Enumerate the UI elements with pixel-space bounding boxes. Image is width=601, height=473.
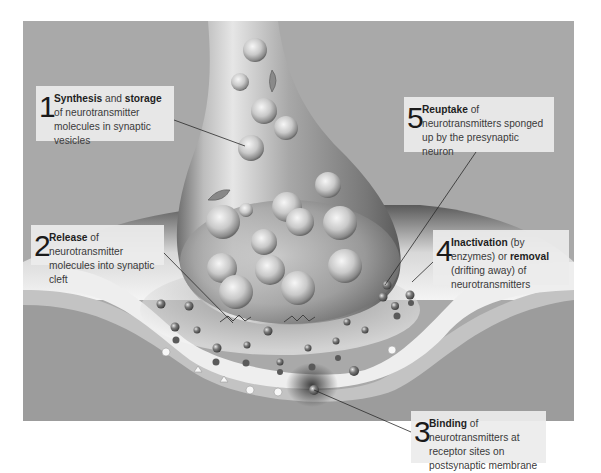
label-text: Inactivation (by enzymes) or removal (dr… [451, 236, 563, 292]
step-number: 2 [34, 231, 51, 261]
step-number: 3 [414, 417, 431, 447]
label-text: Reuptake of neurotransmitters sponged up… [422, 103, 548, 159]
step-number: 5 [407, 103, 424, 133]
label-step-5: 5 Reuptake of neurotransmitters sponged … [404, 97, 554, 152]
label-step-3: 3 Binding of neurotransmitters at recept… [411, 411, 546, 463]
label-step-2: 2 Release of neurotransmitter molecules … [31, 225, 164, 265]
label-text: Release of neurotransmitter molecules in… [49, 231, 158, 287]
label-step-4: 4 Inactivation (by enzymes) or removal (… [433, 230, 569, 285]
step-number: 1 [39, 92, 56, 122]
label-text: Synthesis and storage of neurotransmitte… [54, 92, 168, 148]
label-step-1: 1 Synthesis and storage of neurotransmit… [36, 86, 174, 141]
label-text: Binding of neurotransmitters at receptor… [429, 417, 540, 473]
step-number: 4 [436, 236, 453, 266]
